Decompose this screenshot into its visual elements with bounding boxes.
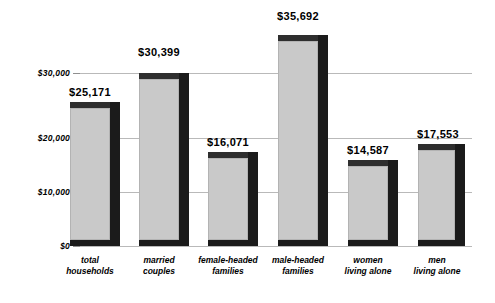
ytick-dash-0 (73, 246, 80, 247)
bar-face-3 (208, 158, 248, 240)
bar-chart: $30,000 $20,000 $10,000 $0 $25,171 total… (0, 0, 495, 303)
bar-shadow-4 (278, 240, 328, 246)
bar-face-1 (70, 108, 110, 240)
bar-side-3 (248, 152, 258, 246)
category-label-men-living-alone: men living alone (392, 255, 482, 277)
bar-shadow-1 (70, 240, 120, 246)
bar-face-5 (348, 166, 388, 240)
axis-baseline (80, 246, 472, 247)
value-label-married-couples: $30,399 (109, 46, 209, 58)
value-label-female-headed-families: $16,071 (178, 136, 278, 148)
value-label-total-households: $25,171 (40, 86, 140, 98)
bar-side-4 (318, 35, 328, 246)
value-label-women-living-alone: $14,587 (318, 144, 418, 156)
bar-face-6 (418, 150, 455, 240)
bar-side-2 (179, 73, 189, 246)
bar-side-6 (455, 144, 465, 246)
bar-shadow-3 (208, 240, 258, 246)
ytick-label-0: $0 (10, 241, 70, 251)
ytick-label-20000: $20,000 (10, 133, 70, 143)
ytick-label-10000: $10,000 (10, 187, 70, 197)
bar-side-1 (110, 102, 120, 246)
value-label-male-headed-families: $35,692 (248, 10, 348, 22)
ytick-dash-30000 (73, 73, 80, 74)
bar-side-5 (388, 160, 398, 246)
bar-shadow-6 (418, 240, 465, 246)
ytick-label-30000: $30,000 (10, 68, 70, 78)
bar-shadow-2 (139, 240, 189, 246)
value-label-men-living-alone: $17,553 (388, 128, 488, 140)
category-line-6b: living alone (392, 266, 482, 277)
bar-shadow-5 (348, 240, 398, 246)
category-line-6a: men (392, 255, 482, 266)
bar-face-4 (278, 41, 318, 240)
bar-face-2 (139, 79, 179, 240)
